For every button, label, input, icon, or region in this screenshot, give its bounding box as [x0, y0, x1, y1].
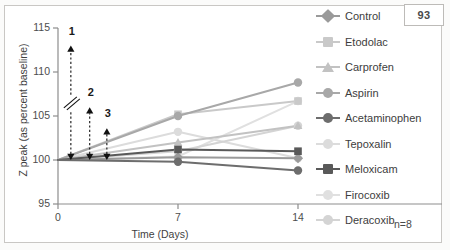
- legend-label-etodolac: Etodolac: [345, 36, 388, 48]
- legend-label-deracoxib: Deracoxib: [345, 214, 395, 226]
- legend-marker-diamond-icon: [316, 9, 340, 23]
- series-marker-acetaminophen: [174, 158, 182, 166]
- annotation-number-2: 2: [88, 86, 94, 98]
- y-tick-110: 110: [20, 65, 50, 77]
- y-tick-95: 95: [20, 197, 50, 209]
- legend-marker-circle-icon: [316, 188, 340, 202]
- series-marker-meloxicam: [294, 147, 302, 155]
- legend-item-aspirin[interactable]: Aspirin: [316, 85, 379, 101]
- legend-label-acetaminophen: Acetaminophen: [345, 112, 421, 124]
- y-tick-115: 115: [20, 21, 50, 33]
- legend-label-aspirin: Aspirin: [345, 87, 379, 99]
- legend-item-tepoxalin[interactable]: Tepoxalin: [316, 136, 391, 152]
- legend-item-carprofen[interactable]: Carprofen: [316, 59, 394, 75]
- legend-marker-square-icon: [316, 162, 340, 176]
- figure-container: 93 Z peak (as percent baseline) Time (Da…: [0, 0, 450, 250]
- legend-label-meloxicam: Meloxicam: [345, 163, 398, 175]
- legend-item-acetaminophen[interactable]: Acetaminophen: [316, 110, 421, 126]
- legend-marker-circle-icon: [316, 137, 340, 151]
- legend-marker-circle-icon: [316, 213, 340, 227]
- annotation-number-1: 1: [69, 25, 75, 37]
- legend-item-deracoxib[interactable]: Deracoxib: [316, 212, 395, 228]
- legend-label-firocoxib: Firocoxib: [345, 189, 390, 201]
- x-tick-0: 0: [44, 211, 72, 223]
- legend-marker-square-icon: [316, 35, 340, 49]
- legend-item-control[interactable]: Control: [316, 8, 380, 24]
- legend-item-meloxicam[interactable]: Meloxicam: [316, 161, 398, 177]
- y-tick-100: 100: [20, 153, 50, 165]
- series-marker-acetaminophen: [294, 166, 302, 174]
- legend-marker-triangle-icon: [316, 60, 340, 74]
- y-tick-105: 105: [20, 109, 50, 121]
- annotation-number-3: 3: [105, 107, 111, 119]
- legend-marker-circle-icon: [316, 86, 340, 100]
- x-axis-label: Time (Days): [95, 228, 225, 240]
- legend-marker-circle-icon: [316, 111, 340, 125]
- legend-label-carprofen: Carprofen: [345, 61, 394, 73]
- sample-size-note: n=8: [394, 218, 412, 230]
- legend-item-firocoxib[interactable]: Firocoxib: [316, 187, 390, 203]
- x-tick-7: 7: [164, 211, 192, 223]
- series-layer: [58, 78, 303, 174]
- series-marker-aspirin: [294, 78, 302, 86]
- legend-label-control: Control: [345, 10, 380, 22]
- series-marker-tepoxalin: [174, 128, 182, 136]
- legend-item-etodolac[interactable]: Etodolac: [316, 34, 388, 50]
- legend-label-tepoxalin: Tepoxalin: [345, 138, 391, 150]
- series-marker-meloxicam: [174, 146, 182, 154]
- page-number-badge: 93: [404, 4, 444, 26]
- series-marker-aspirin: [174, 112, 182, 120]
- x-tick-14: 14: [284, 211, 312, 223]
- series-marker-etodolac: [294, 97, 302, 105]
